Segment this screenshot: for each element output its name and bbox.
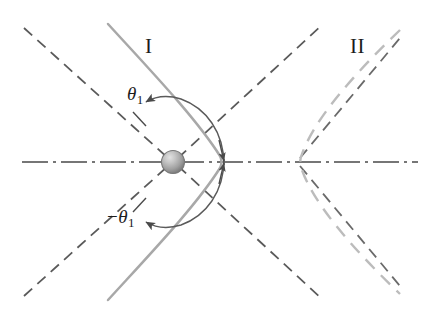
angle-label-negative-theta-one: −θ1	[107, 207, 135, 229]
theta-glyph: θ	[127, 83, 136, 104]
angle-tick-lower	[133, 198, 146, 212]
asymptote-upper-right	[178, 25, 322, 158]
sphere	[162, 151, 185, 174]
angle-label-theta-one: θ1	[127, 84, 143, 106]
theta-subscript-negative: 1	[128, 215, 135, 230]
figure-canvas	[0, 0, 439, 310]
theta-glyph-negative: θ	[118, 206, 127, 227]
region-label-two: II	[350, 36, 365, 57]
asymptote-lower-right	[178, 166, 322, 299]
region-label-one: I	[145, 36, 153, 57]
theta-subscript: 1	[137, 92, 144, 107]
minus-sign: −	[107, 206, 118, 227]
asymptote-lower-right-secondary	[300, 166, 400, 286]
angle-tick-upper	[133, 112, 146, 126]
parabolic-coordinate-figure: I II θ1 −θ1	[0, 0, 439, 310]
asymptote-lower-left	[24, 166, 168, 296]
